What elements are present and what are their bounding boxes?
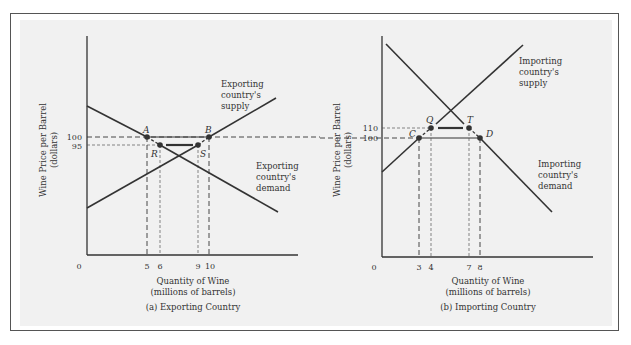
point-a — [144, 134, 150, 140]
demand-curve-a-upper — [87, 106, 147, 137]
supply-curve-a-lower — [87, 145, 198, 208]
demand-label-a-1: Exporting — [256, 161, 299, 171]
point-c — [416, 135, 422, 141]
point-d — [477, 135, 483, 141]
demand-curve-b-upper — [386, 44, 464, 124]
demand-label-a-3: demand — [256, 183, 291, 193]
supply-label-a-1: Exporting — [221, 79, 264, 89]
supply-curve-b-lower — [382, 138, 419, 172]
y-tick-95-a: 95 — [72, 142, 82, 151]
demand-label-b-3: demand — [538, 181, 573, 191]
x-tick-8: 8 — [477, 263, 482, 272]
point-d-label: D — [485, 129, 493, 139]
supply-label-a-2: country's — [221, 90, 261, 100]
y-tick-100-a: 100 — [67, 133, 82, 142]
y-axis-label-b-line1: Wine Price per Barrel — [332, 103, 342, 197]
panel-exporting-country: A B R S 100 95 0 5 6 9 10 Quantity of Wi… — [38, 36, 320, 312]
x-axis-label-a-line1: Quantity of Wine — [157, 276, 230, 286]
caption-a: (a) Exporting Country — [146, 302, 241, 312]
x-axis-label-b-line2: (millions of barrels) — [446, 287, 531, 297]
x-tick-4: 4 — [428, 263, 433, 272]
x-tick-10: 10 — [205, 262, 215, 271]
x-tick-9: 9 — [195, 262, 200, 271]
supply-label-b-1: Importing — [519, 56, 563, 66]
x-tick-6: 6 — [157, 262, 162, 271]
point-q-label: Q — [426, 115, 434, 125]
point-s-label: S — [200, 149, 206, 159]
figure-svg: A B R S 100 95 0 5 6 9 10 Quantity of Wi… — [0, 0, 631, 345]
y-tick-100-b: 100 — [363, 134, 378, 143]
y-axis-label-a-line1: Wine Price per Barrel — [38, 103, 48, 197]
y-axis-label-b-line2: (dollars) — [343, 132, 353, 168]
point-b-label: B — [204, 125, 212, 135]
caption-b: (b) Importing Country — [440, 302, 536, 312]
point-t — [466, 125, 472, 131]
x-tick-7: 7 — [466, 263, 471, 272]
point-q — [428, 125, 434, 131]
point-r — [157, 142, 163, 148]
panel-importing-country: C Q T D 110 100 0 3 4 7 8 Quantity of Wi… — [320, 36, 593, 312]
point-t-label: T — [467, 115, 474, 125]
x-axis-label-b-line1: Quantity of Wine — [452, 276, 525, 286]
point-a-label: A — [142, 125, 150, 135]
point-c-label: C — [409, 129, 416, 139]
demand-label-b-1: Importing — [538, 159, 582, 169]
x-tick-5: 5 — [144, 262, 149, 271]
supply-curve-b-upper — [436, 45, 523, 124]
demand-label-a-2: country's — [256, 172, 296, 182]
point-b — [206, 134, 212, 140]
x-axis-label-a-line2: (millions of barrels) — [151, 287, 236, 297]
supply-label-a-3: supply — [221, 101, 249, 111]
x-tick-3: 3 — [416, 263, 421, 272]
supply-label-b-3: supply — [519, 78, 547, 88]
supply-label-b-2: country's — [519, 67, 559, 77]
x-tick-0-a: 0 — [76, 262, 81, 271]
y-axis-label-a-line2: (dollars) — [49, 132, 59, 168]
y-tick-110-b: 110 — [363, 124, 378, 133]
x-tick-0-b: 0 — [371, 263, 376, 272]
demand-label-b-2: country's — [538, 170, 578, 180]
point-r-label: R — [150, 149, 158, 159]
point-s — [195, 142, 201, 148]
